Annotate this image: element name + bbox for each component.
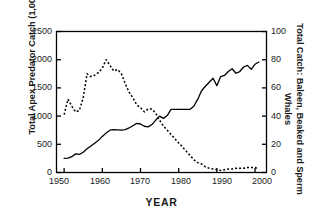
plot-frame — [57, 32, 267, 173]
x-axis-ticks — [64, 168, 255, 173]
apex-predator-catch-line — [64, 62, 259, 158]
y-axis-left-ticks — [57, 32, 62, 173]
chart-figure: Total Apex Predator Catch (1,000 t yr-1)… — [0, 0, 321, 217]
whale-catch-line — [64, 60, 259, 171]
plot-area — [0, 0, 321, 217]
y-axis-right-ticks — [262, 32, 267, 173]
